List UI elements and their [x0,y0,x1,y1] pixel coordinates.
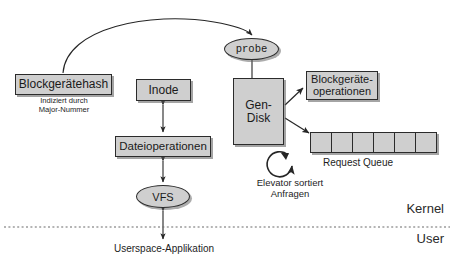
node-vfs[interactable]: VFS [136,185,190,208]
edge-gendisk-requestqueue [285,118,309,133]
caption-elevator: Elevator sortiert Anfragen [245,177,335,199]
elevator-loop-arrow-top [281,153,289,160]
caption-userspace-application: Userspace-Applikation [100,243,228,255]
request-queue-cell[interactable] [373,132,395,153]
request-queue[interactable] [310,132,437,153]
node-gen-disk[interactable]: Gen- Disk [233,78,284,145]
request-queue-cell[interactable] [331,132,353,153]
zone-label-kernel: Kernel [368,201,444,216]
node-blockgeraeteoperationen[interactable]: Blockgeräte- operationen [306,71,378,100]
request-queue-cell[interactable] [415,132,437,153]
node-blockgeraetehash[interactable]: Blockgerätehash [15,74,112,95]
zone-label-user: User [368,231,444,246]
elevator-loop-icon [267,152,292,177]
block-device-diagram: Blockgerätehash Inode Dateioperationen G… [0,0,454,270]
node-probe[interactable]: probe [224,38,279,60]
request-queue-cell[interactable] [394,132,416,153]
node-dateioperationen[interactable]: Dateioperationen [115,136,211,157]
edge-gendisk-blockops [285,88,303,105]
request-queue-cell[interactable] [352,132,374,153]
caption-hash-index: Indiziert durch Major-Nummer [12,97,116,115]
request-queue-cell[interactable] [310,132,332,153]
node-inode[interactable]: Inode [136,79,191,101]
caption-request-queue: Request Queue [318,157,398,169]
